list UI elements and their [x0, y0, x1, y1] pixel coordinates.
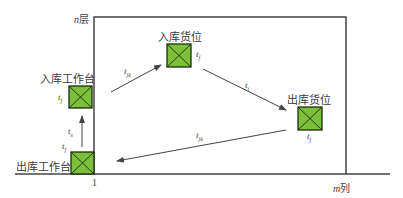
time-outbound-slot: tf — [307, 131, 311, 143]
edge-time-to-outbound-slot: tt — [245, 80, 249, 92]
slot-inbound-station — [69, 86, 92, 108]
slot-inbound-storage — [167, 44, 191, 67]
slot-outbound-storage — [298, 107, 322, 130]
edge-time-lift: ts — [68, 126, 73, 138]
label-inbound-station: 入库工作台 — [40, 70, 95, 86]
arrow-to-inbound-slot — [111, 65, 161, 92]
label-inbound-slot: 入库货位 — [158, 28, 202, 44]
time-inbound-station: tf — [58, 92, 62, 104]
slot-outbound-station — [71, 152, 94, 174]
label-outbound-slot: 出库货位 — [287, 91, 331, 107]
y-axis-top-label: n层 — [74, 11, 89, 26]
label-outbound-station: 出库工作台 — [16, 158, 71, 174]
x-axis-origin-label: 1 — [92, 177, 97, 188]
edge-time-to-inbound-slot: tjk — [124, 66, 131, 78]
time-outbound-station: tf — [62, 141, 66, 153]
time-inbound-slot: tf — [196, 49, 200, 61]
x-axis-right-label: m列 — [333, 180, 350, 195]
edge-time-to-outbound-station: tjk — [196, 130, 203, 142]
storage-cycle-diagram: n层 m列 1 出库工作台 入库工作台 入库货位 出库货位 tf tf tf t… — [0, 0, 403, 198]
